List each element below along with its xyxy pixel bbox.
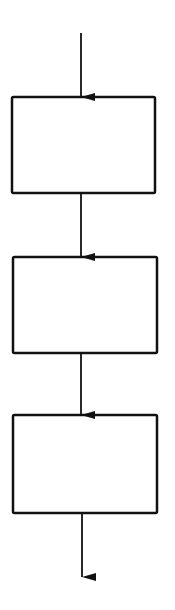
process-box-3 bbox=[13, 415, 157, 513]
process-box-2 bbox=[13, 257, 157, 353]
process-box-1 bbox=[12, 97, 155, 193]
flowchart-diagram bbox=[0, 0, 175, 610]
